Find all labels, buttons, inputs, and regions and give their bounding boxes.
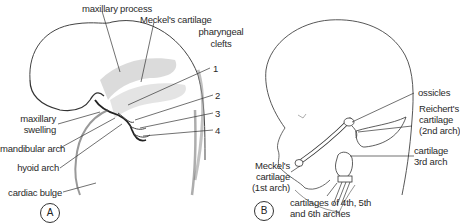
label-cleft-3: 3 [215,108,220,119]
label-meckels-b-line2: cartilage [240,171,290,182]
label-pharyngeal-clefts-line1: pharyngeal [196,26,246,37]
label-cleft-2: 2 [215,90,220,101]
label-cleft-1: 1 [213,63,218,74]
label-meckels-b-line1: Meckel's [240,160,290,171]
label-cardiac-bulge: cardiac bulge [0,187,62,198]
label-pharyngeal-clefts-line2: clefts [196,38,246,49]
label-reicherts-line2: cartilage [419,114,453,125]
label-ossicles: ossicles [418,87,450,98]
label-reicherts-line1: Reichert's [419,103,459,114]
label-hyoid-arch: hyoid arch [0,162,59,173]
label-maxillary-process: maxillary process [82,3,152,14]
label-maxillary-swelling-line2: swelling [8,124,56,135]
label-maxillary-swelling-line1: maxillary [8,113,56,124]
label-cartilage-3rd-line2: 3rd arch [414,156,447,167]
label-meckels-cartilage-a: Meckel's cartilage [140,14,212,25]
label-meckels-b-line3: (1st arch) [240,182,290,193]
label-cartilages-456-line2: and 6th arches [290,208,350,219]
label-cartilage-3rd-line1: cartilage [414,145,448,156]
label-reicherts-line3: (2nd arch) [419,125,460,136]
panel-b-badge: B [254,201,274,221]
label-mandibular-arch: mandibular arch [0,143,59,154]
label-cartilages-456-line1: cartilages of 4th, 5th [290,197,371,208]
panel-a-badge: A [40,203,60,223]
label-cleft-4: 4 [215,125,220,136]
